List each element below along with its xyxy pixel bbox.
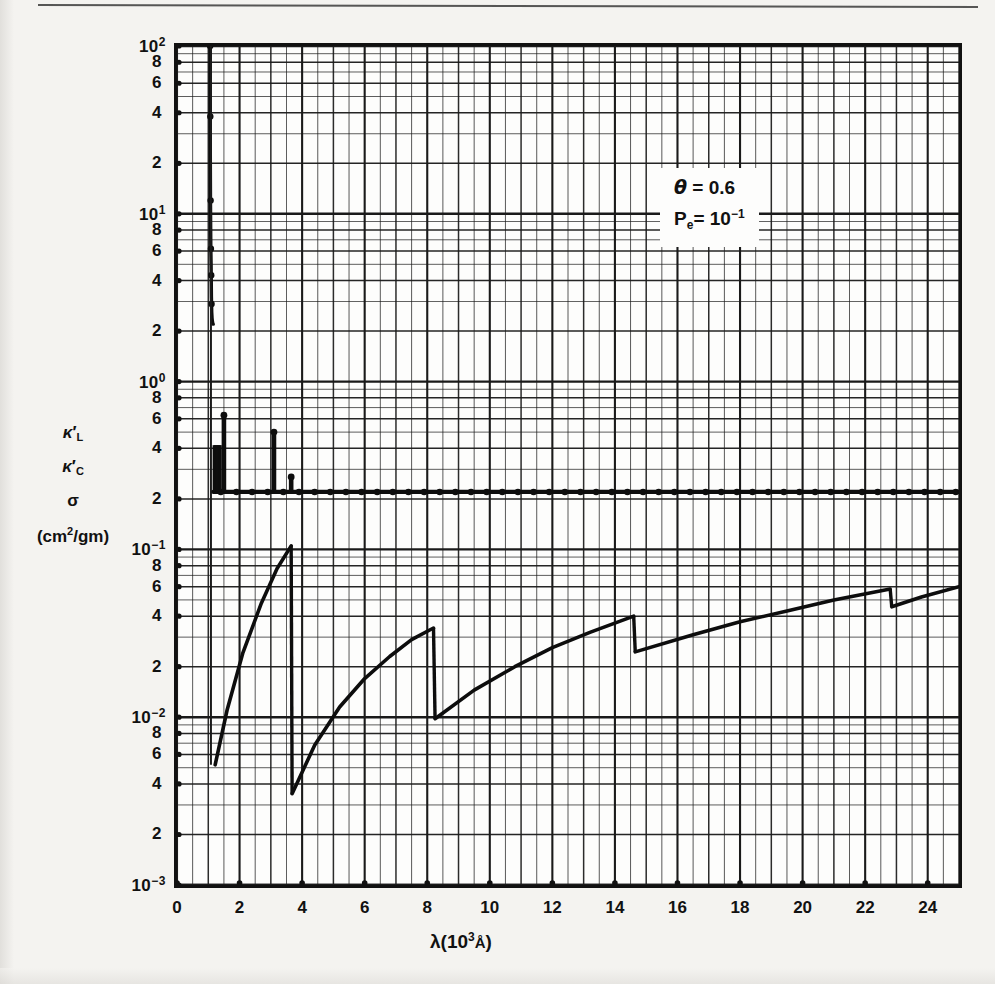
kappa-subscript-l: L	[76, 431, 83, 443]
pe-exponent: −1	[731, 207, 745, 221]
x-tick-2: 2	[235, 898, 244, 918]
x-title-ten: 10	[447, 931, 468, 952]
x-tick-16: 16	[668, 898, 687, 918]
lambda-symbol: λ(	[430, 931, 447, 952]
plot-grid	[177, 46, 959, 885]
y-tick-minor-2-2: 2	[152, 153, 162, 173]
pe-symbol: P	[674, 208, 687, 229]
x-title-exponent: 3	[468, 930, 475, 944]
kappa-symbol-l: κ	[63, 423, 73, 442]
y-tick-minor-1-6: 6	[152, 241, 162, 261]
y-tick-minor-0-6: 6	[152, 409, 162, 429]
x-tick-24: 24	[918, 898, 937, 918]
figure-page: 10286421018642100864210−1864210−2864210−…	[0, 0, 995, 984]
x-axis-title: λ(103Å)	[430, 930, 492, 953]
theta-value: 0.6	[709, 177, 735, 198]
y-axis-title-line-1: κ′L	[18, 418, 128, 452]
y-tick-minor--1-2: 2	[152, 657, 162, 677]
page-top-rule	[38, 4, 978, 8]
y-axis-title-line-4: (cm2/gm)	[18, 516, 128, 552]
y-tick-minor--2-8: 8	[152, 723, 162, 743]
angstrom-symbol: Å	[475, 934, 486, 951]
x-tick-8: 8	[423, 898, 432, 918]
page-left-edge	[0, 0, 14, 984]
y-axis-title-line-2: κ′C	[18, 452, 128, 486]
x-tick-22: 22	[856, 898, 875, 918]
theta-symbol: θ	[674, 176, 687, 198]
y-tick-minor-0-8: 8	[152, 388, 162, 408]
x-tick-4: 4	[297, 898, 306, 918]
y-tick-minor-1-2: 2	[152, 321, 162, 341]
y-tick-minor-2-8: 8	[152, 52, 162, 72]
pe-value: 10	[710, 208, 731, 229]
y-tick-minor--1-8: 8	[152, 556, 162, 576]
x-tick-18: 18	[731, 898, 750, 918]
y-tick-minor--2-2: 2	[152, 824, 162, 844]
x-tick-0: 0	[172, 898, 181, 918]
kappa-symbol-c: κ	[62, 457, 72, 476]
annotation-theta-line: θ = 0.6	[674, 174, 745, 201]
units-prefix: (cm	[37, 527, 67, 546]
y-axis-title-line-3: σ	[18, 486, 128, 516]
pe-equals: =	[693, 208, 704, 229]
y-tick-minor-1-4: 4	[152, 271, 162, 291]
y-tick-minor-0-2: 2	[152, 489, 162, 509]
theta-equals: =	[692, 177, 703, 198]
y-tick-minor--2-4: 4	[152, 774, 162, 794]
x-title-close-paren: )	[486, 931, 492, 952]
x-axis-tick-labels: 024681012141618202224	[174, 898, 962, 924]
y-tick-minor-2-4: 4	[152, 103, 162, 123]
y-tick-minor-2-6: 6	[152, 73, 162, 93]
x-tick-14: 14	[605, 898, 624, 918]
x-tick-12: 12	[543, 898, 562, 918]
y-tick-decade--3: 10−3	[131, 874, 166, 897]
y-tick-minor--1-4: 4	[152, 606, 162, 626]
x-tick-20: 20	[793, 898, 812, 918]
parameter-annotation: θ = 0.6 Pe= 10−1	[660, 168, 759, 247]
y-axis-title: κ′L κ′C σ (cm2/gm)	[18, 418, 128, 552]
y-tick-minor-1-8: 8	[152, 220, 162, 240]
kappa-subscript-c: C	[76, 465, 84, 477]
plot-area	[174, 43, 962, 888]
y-tick-minor-0-4: 4	[152, 438, 162, 458]
page-bottom-edge	[0, 968, 995, 984]
units-suffix: /gm)	[73, 527, 109, 546]
x-tick-10: 10	[480, 898, 499, 918]
annotation-pe-line: Pe= 10−1	[674, 201, 745, 239]
x-tick-6: 6	[360, 898, 369, 918]
y-tick-minor--1-6: 6	[152, 577, 162, 597]
y-tick-minor--2-6: 6	[152, 744, 162, 764]
